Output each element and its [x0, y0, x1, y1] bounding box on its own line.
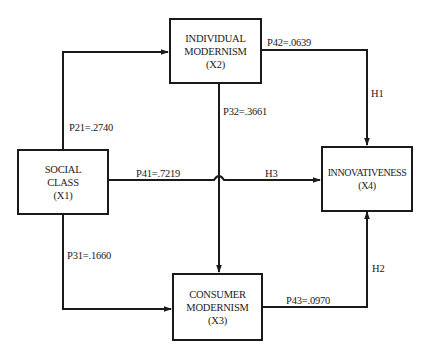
node-x3-line2: MODERNISM — [186, 301, 248, 314]
node-x1-line2: CLASS — [47, 176, 79, 189]
label-h3: H3 — [265, 168, 277, 180]
path-x2-x4 — [261, 50, 367, 145]
node-innovativeness: INNOVATIVENESS (X4) — [321, 146, 413, 212]
label-p41: P41=.7219 — [136, 168, 180, 180]
node-social-class: SOCIAL CLASS (X1) — [17, 149, 109, 215]
label-p21: P21=.2740 — [69, 122, 113, 134]
node-x3-line1: CONSUMER — [189, 288, 246, 301]
node-individual-modernism: INDIVIDUAL MODERNISM (X2) — [169, 18, 262, 84]
label-h1: H1 — [371, 88, 383, 100]
node-x3-line3: (X3) — [208, 314, 227, 327]
label-p32: P32=.3661 — [223, 106, 267, 118]
node-consumer-modernism: CONSUMER MODERNISM (X3) — [172, 273, 263, 341]
node-x1-line1: SOCIAL — [45, 163, 82, 176]
node-x1-line3: (X1) — [53, 189, 72, 202]
path-x3-x4 — [262, 212, 367, 307]
node-x2-line1: INDIVIDUAL — [185, 32, 245, 45]
path-x1-x2 — [63, 52, 168, 149]
label-p43: P43=.0970 — [286, 295, 330, 307]
label-h2: H2 — [372, 263, 384, 275]
node-x2-line3: (X2) — [206, 58, 225, 71]
node-x2-line2: MODERNISM — [184, 45, 246, 58]
node-x4-line2: (X4) — [358, 179, 375, 192]
label-p31: P31=.1660 — [67, 250, 111, 262]
node-x4-line1: INNOVATIVENESS — [328, 166, 407, 179]
label-p42: P42=.0639 — [267, 37, 311, 49]
